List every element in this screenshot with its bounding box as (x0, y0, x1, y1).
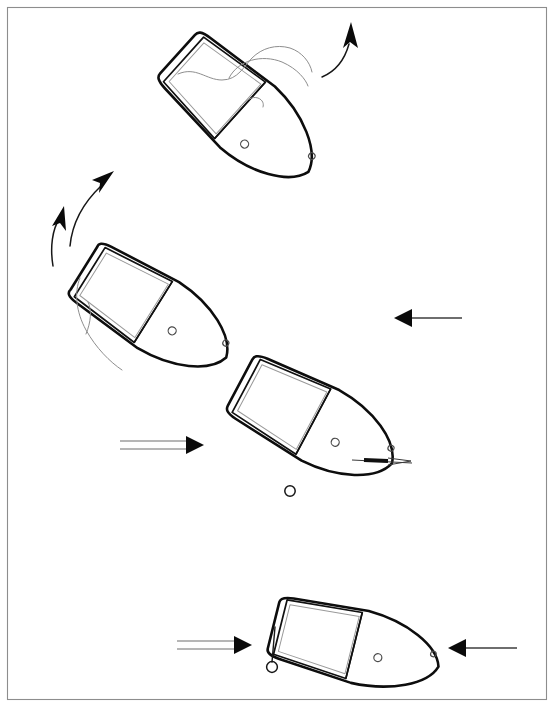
boat-maneuvering-diagram (0, 0, 553, 706)
boat-3-tiller-bar (364, 460, 388, 461)
diagram-canvas (0, 0, 553, 706)
